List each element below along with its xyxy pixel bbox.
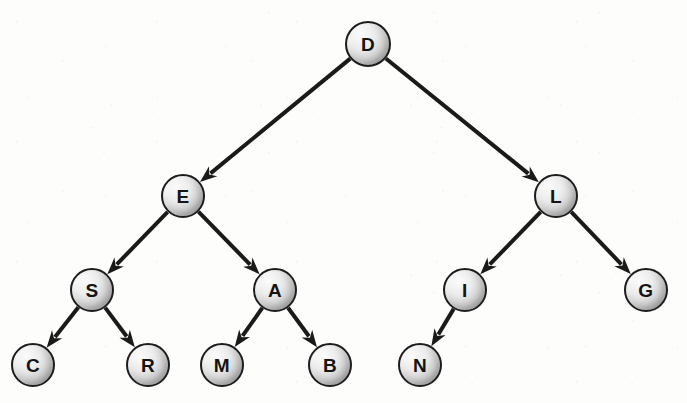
tree-edge-a-b (288, 308, 317, 348)
tree-edge-s-r (105, 308, 135, 348)
edge-line (571, 212, 621, 264)
tree-edge-d-l (386, 58, 539, 182)
edge-line (243, 308, 263, 336)
tree-node-label: E (176, 187, 189, 206)
tree-node-a[interactable]: A (253, 268, 297, 312)
tree-edge-l-i (480, 212, 540, 274)
tree-node-label: N (413, 356, 427, 375)
edge-line (117, 212, 168, 265)
tree-edge-e-s (107, 212, 167, 274)
tree-node-label: S (85, 281, 98, 300)
tree-node-label: B (323, 356, 337, 375)
tree-node-e[interactable]: E (161, 174, 205, 218)
tree-edge-d-e (200, 59, 350, 182)
edge-line (438, 309, 453, 335)
tree-node-label: I (462, 281, 468, 300)
tree-edge-i-n (431, 309, 453, 346)
edge-line (490, 212, 541, 265)
tree-node-label: D (361, 35, 375, 54)
edge-line (288, 308, 309, 337)
tree-node-i[interactable]: I (443, 268, 487, 312)
edge-line (105, 308, 127, 337)
tree-edge-l-g (571, 212, 631, 274)
tree-node-r[interactable]: R (126, 343, 170, 387)
tree-node-b[interactable]: B (308, 343, 352, 387)
tree-node-l[interactable]: L (534, 174, 578, 218)
edge-line (198, 212, 250, 265)
tree-node-label: C (26, 356, 40, 375)
edge-line (211, 59, 351, 174)
tree-node-label: R (141, 356, 155, 375)
edge-line (55, 307, 78, 337)
tree-node-d[interactable]: D (345, 21, 391, 67)
tree-node-label: L (550, 187, 562, 206)
tree-node-g[interactable]: G (624, 268, 668, 312)
tree-node-label: M (214, 356, 230, 375)
tree-edge-a-m (235, 308, 263, 347)
tree-node-n[interactable]: N (398, 343, 442, 387)
tree-node-label: G (638, 281, 653, 300)
tree-diagram-canvas: DELSAIGCRMBN (0, 0, 687, 403)
tree-edge-e-a (198, 212, 259, 275)
edge-layer (0, 0, 687, 403)
tree-node-label: A (268, 281, 282, 300)
edge-line (386, 58, 528, 173)
tree-node-m[interactable]: M (200, 343, 244, 387)
tree-node-s[interactable]: S (70, 268, 114, 312)
tree-edge-s-c (47, 307, 79, 347)
tree-node-c[interactable]: C (11, 343, 55, 387)
